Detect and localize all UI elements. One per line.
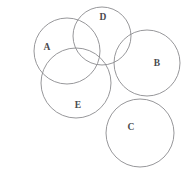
venn-diagram-figure: A D B E C [0,0,189,172]
venn-label-a: A [43,42,50,52]
venn-label-e: E [75,100,82,110]
venn-circle-c [106,99,174,167]
venn-circle-b [114,30,180,96]
venn-circle-group [34,7,180,167]
venn-diagram-canvas: A D B E C [0,0,189,172]
venn-label-c: C [127,122,134,132]
venn-label-b: B [154,58,161,68]
venn-label-d: D [99,12,106,22]
